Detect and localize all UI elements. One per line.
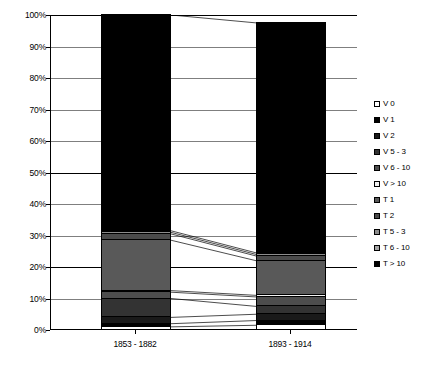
legend-swatch-icon	[374, 165, 380, 171]
connector-line	[171, 321, 256, 324]
legend-swatch-icon	[374, 245, 380, 251]
x-axis-tick-mark	[290, 330, 291, 334]
legend-swatch-icon	[374, 117, 380, 123]
y-axis-tick-label: 100%	[6, 11, 46, 20]
connector-line	[171, 314, 256, 317]
y-axis-tick-label: 60%	[6, 137, 46, 146]
legend-swatch-icon	[374, 197, 380, 203]
legend-item-label: V 6 - 10	[383, 164, 410, 172]
x-axis-tick-mark	[135, 330, 136, 334]
y-axis-tick-label: 30%	[6, 232, 46, 241]
legend-swatch-icon	[374, 261, 380, 267]
bar-segment[interactable]	[256, 324, 326, 329]
bar-segment[interactable]	[101, 231, 171, 233]
bar-segment[interactable]	[101, 316, 171, 322]
connector-line	[171, 292, 256, 297]
legend-swatch-icon	[374, 101, 380, 107]
bar-segment[interactable]	[101, 14, 171, 230]
y-axis-tick-label: 50%	[6, 169, 46, 178]
y-axis-tick-label: 40%	[6, 200, 46, 209]
chart-legend: V 0V 1V 2V 5 - 3V 6 - 10V > 10T 1T 2T 5 …	[374, 96, 440, 272]
y-axis-tick-label: 80%	[6, 74, 46, 83]
connector-line	[171, 299, 256, 307]
legend-swatch-icon	[374, 181, 380, 187]
bar-segment[interactable]	[101, 291, 171, 297]
legend-item[interactable]: V 2	[374, 128, 440, 144]
legend-swatch-icon	[374, 133, 380, 139]
legend-item[interactable]: V > 10	[374, 176, 440, 192]
bar-segment[interactable]	[256, 22, 326, 252]
x-axis-tick-label: 1893 - 1914	[220, 340, 360, 349]
bar-segment[interactable]	[101, 298, 171, 317]
legend-item[interactable]: T > 10	[374, 256, 440, 272]
bar-segment[interactable]	[101, 239, 171, 289]
y-axis-tick-label: 0%	[6, 326, 46, 335]
legend-item[interactable]: V 5 - 3	[374, 144, 440, 160]
stacked-column-chart: 0%10%20%30%40%50%60%70%80%90%100% 1853 -…	[0, 0, 442, 368]
bar-segment[interactable]	[101, 230, 171, 232]
bar-segment[interactable]	[256, 296, 326, 305]
legend-item[interactable]: V 6 - 10	[374, 160, 440, 176]
bar-segment[interactable]	[256, 313, 326, 319]
y-axis-tick-label: 90%	[6, 43, 46, 52]
bar-segment[interactable]	[256, 305, 326, 313]
bar-segment[interactable]	[101, 233, 171, 239]
bar-segment[interactable]	[256, 260, 326, 295]
legend-item-label: T 2	[383, 212, 394, 220]
plot-area	[50, 15, 357, 330]
legend-item-label: T > 10	[383, 260, 405, 268]
gridline	[51, 15, 357, 16]
bar-segment[interactable]	[256, 252, 326, 254]
legend-item[interactable]: T 6 - 10	[374, 240, 440, 256]
connector-line	[171, 291, 256, 296]
bar-segment[interactable]	[101, 326, 171, 329]
legend-item-label: T 1	[383, 196, 394, 204]
legend-item-label: V 5 - 3	[383, 148, 406, 156]
legend-item-label: T 6 - 10	[383, 244, 410, 252]
bar-segment[interactable]	[256, 255, 326, 260]
legend-item-label: V 2	[383, 132, 395, 140]
legend-item[interactable]: T 2	[374, 208, 440, 224]
connector-line	[171, 240, 256, 260]
y-axis-tick-label: 70%	[6, 106, 46, 115]
legend-swatch-icon	[374, 229, 380, 235]
y-axis-tick-mark	[46, 330, 50, 331]
legend-item-label: V 0	[383, 100, 395, 108]
connector-line	[171, 231, 256, 253]
legend-item[interactable]: T 5 - 3	[374, 224, 440, 240]
legend-item[interactable]: V 1	[374, 112, 440, 128]
bar-segment[interactable]	[256, 294, 326, 296]
legend-item[interactable]: T 1	[374, 192, 440, 208]
y-axis-tick-label: 10%	[6, 295, 46, 304]
connector-line	[171, 325, 256, 327]
legend-item-label: V > 10	[383, 180, 406, 188]
bar-segment[interactable]	[256, 253, 326, 255]
x-axis-tick-label: 1853 - 1882	[65, 340, 205, 349]
bar-segment[interactable]	[256, 320, 326, 325]
legend-swatch-icon	[374, 149, 380, 155]
legend-item[interactable]: V 0	[374, 96, 440, 112]
bar-segment[interactable]	[101, 323, 171, 326]
legend-swatch-icon	[374, 213, 380, 219]
legend-item-label: V 1	[383, 116, 395, 124]
legend-item-label: T 5 - 3	[383, 228, 405, 236]
y-axis-tick-label: 20%	[6, 263, 46, 272]
connector-line	[171, 234, 256, 256]
connector-line	[171, 15, 256, 23]
bar-segment[interactable]	[101, 290, 171, 292]
